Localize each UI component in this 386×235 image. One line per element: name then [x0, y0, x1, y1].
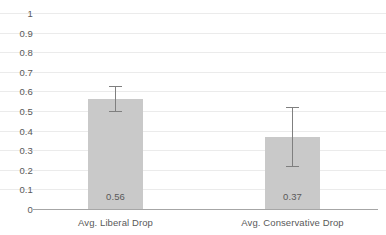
error-bar-cap-lower-liberal — [109, 111, 122, 112]
error-bar-cap-lower-conservative — [286, 166, 299, 167]
y-tick-label-0.1: 0.1 — [3, 185, 33, 195]
x-tick-label-avg-liberal-drop: Avg. Liberal Drop — [45, 218, 186, 228]
gridline-0.5 — [0, 111, 386, 112]
error-bar-cap-upper-conservative — [286, 107, 299, 108]
gridline-0.2 — [0, 170, 386, 171]
y-tick-label-1.0: 1 — [3, 9, 33, 19]
y-tick-label-0.2: 0.2 — [3, 166, 33, 176]
error-bar-line-liberal — [115, 86, 116, 112]
y-tick-label-0.8: 0.8 — [3, 48, 33, 58]
x-axis-baseline — [33, 209, 378, 210]
y-axis: 1 0.9 0.8 0.7 0.6 0.5 0.4 0.3 0.2 0.1 0 — [0, 0, 33, 235]
y-tick-label-0.7: 0.7 — [3, 68, 33, 78]
y-tick-label-0.9: 0.9 — [3, 29, 33, 39]
x-tick-label-avg-conservative-drop: Avg. Conservative Drop — [222, 218, 363, 228]
gridline-0.7 — [0, 72, 386, 73]
y-tick-label-0.4: 0.4 — [3, 127, 33, 137]
gridline-0.4 — [0, 131, 386, 132]
error-bar-cap-upper-liberal — [109, 86, 122, 87]
y-tick-label-0.5: 0.5 — [3, 107, 33, 117]
y-tick-label-0: 0 — [3, 205, 33, 215]
gridline-0.3 — [0, 150, 386, 151]
bar-chart: 1 0.9 0.8 0.7 0.6 0.5 0.4 0.3 0.2 0.1 0 … — [0, 0, 386, 235]
gridline-0.1 — [0, 189, 386, 190]
error-bar-line-conservative — [292, 107, 293, 166]
y-tick-label-0.6: 0.6 — [3, 87, 33, 97]
y-tick-label-0.3: 0.3 — [3, 146, 33, 156]
bar-value-label-liberal: 0.56 — [88, 192, 143, 202]
gridline-0.9 — [0, 33, 386, 34]
gridline-0.6 — [0, 91, 386, 92]
gridline-1.0 — [0, 13, 386, 14]
gridline-0.8 — [0, 52, 386, 53]
bar-value-label-conservative: 0.37 — [265, 192, 320, 202]
